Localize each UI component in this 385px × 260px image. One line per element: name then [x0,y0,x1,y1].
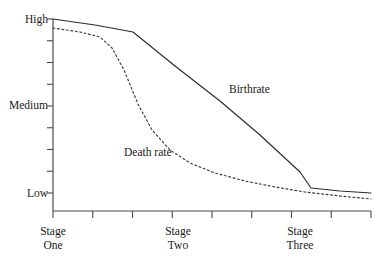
y-tick-label-low: Low [27,187,49,199]
x-axis-stage-label: Three [287,239,314,251]
y-tick-label-high: High [25,13,48,26]
birthrate-series-label: Birthrate [229,83,270,95]
x-axis-stage-label: Two [168,239,189,251]
x-axis-stage-labels: StageOneStageTwoStageThree [40,225,313,251]
x-axis-stage-label: Stage [287,225,313,238]
x-axis-stage-label: Stage [40,225,66,238]
death-rate-curve [53,28,371,199]
birthrate-curve [53,19,371,193]
x-axis-ticks [53,211,371,218]
x-axis-stage-label: One [43,239,62,251]
y-tick-label-medium: Medium [9,99,48,111]
death-rate-series-label: Death rate [124,146,172,158]
x-axis-stage-label: Stage [165,225,191,238]
chart-svg: High Medium Low Birthrate Death rate Sta… [0,0,385,260]
demographic-transition-chart: High Medium Low Birthrate Death rate Sta… [0,0,385,260]
